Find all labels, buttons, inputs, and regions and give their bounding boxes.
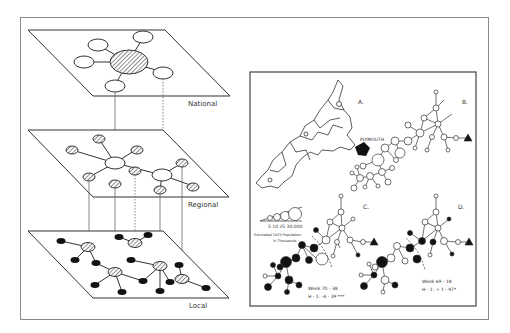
legend-caption-line2: in Thousands (273, 239, 296, 243)
stats-c-line1: Week 70 - 38 (308, 286, 338, 291)
figure-svg: National Regional (0, 0, 510, 333)
national-plane (28, 30, 230, 96)
panel-c-label: C. (363, 203, 369, 210)
panel-d-label: D. (458, 203, 465, 210)
panel-a-label: A. (358, 98, 364, 105)
stats-d-line1: Week 69 - 18 (422, 279, 452, 284)
legend-caption-line1: Estimated 1970 Population (254, 233, 301, 237)
local-plane (28, 231, 229, 298)
stats-c-line2: H - 1: -4 - 39 *** (308, 294, 345, 299)
stats-d-line2: H - 1: + 1 - 97* (422, 287, 457, 292)
legend-scale-values: 5 10 25 30,000 (268, 224, 302, 229)
local-label: Local (189, 302, 207, 310)
regional-label: Regional (188, 201, 218, 209)
right-panel-frame (250, 72, 476, 306)
panel-b-label: B. (462, 98, 468, 105)
national-label: National (188, 100, 217, 108)
city-label: PLYMOUTH (360, 137, 384, 142)
regional-plane (28, 130, 229, 197)
